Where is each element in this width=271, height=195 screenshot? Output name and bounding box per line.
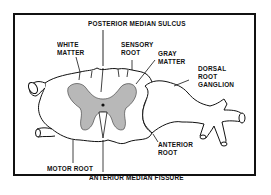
dorsal-root-ganglion-shape (143, 81, 243, 145)
label-sensory-root: SENSORY ROOT (121, 41, 154, 57)
label-dorsal-root-ganglion: DORSAL ROOT GANGLION (198, 65, 234, 89)
label-gray-matter: GRAY MATTER (158, 50, 185, 66)
label-anterior-root: ANTERIOR ROOT (158, 141, 193, 157)
label-white-matter: WHITE MATTER (57, 41, 84, 57)
label-anterior-median-fissure: ANTERIOR MEDIAN FISSURE (89, 174, 184, 182)
spinal-cord-diagram (0, 0, 271, 195)
label-motor-root: MOTOR ROOT (47, 165, 93, 173)
central-canal (101, 103, 104, 106)
label-posterior-median-sulcus: POSTERIOR MEDIAN SULCUS (88, 20, 186, 28)
